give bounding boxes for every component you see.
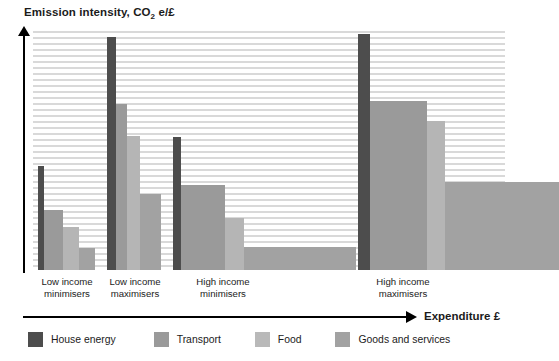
bar-high-income-minimisers-house-energy <box>173 137 181 270</box>
chart-legend: House energyTransportFoodGoods and servi… <box>28 332 450 347</box>
legend-label: House energy <box>51 334 116 345</box>
bar-high-income-maximisers-food <box>427 121 445 270</box>
y-axis-line <box>23 34 25 273</box>
y-axis-title: Emission intensity, CO2 e/£ <box>24 6 175 21</box>
group-label-line2: maximisers <box>363 288 443 300</box>
x-axis-arrow-icon <box>406 311 417 323</box>
legend-item-house-energy[interactable]: House energy <box>28 332 116 347</box>
bar-low-income-minimisers-transport <box>44 210 63 270</box>
legend-label: Transport <box>177 334 221 345</box>
group-label-line2: minimisers <box>183 288 263 300</box>
bar-high-income-maximisers-goods-and-services <box>445 182 559 270</box>
plot-area <box>33 31 505 270</box>
group-label-3: High incomeminimisers <box>183 276 263 299</box>
legend-swatch-icon <box>335 332 350 347</box>
legend-swatch-icon <box>154 332 169 347</box>
bar-high-income-maximisers-house-energy <box>358 34 370 270</box>
bar-low-income-minimisers-goods-and-services <box>79 248 95 270</box>
legend-swatch-icon <box>28 332 43 347</box>
legend-swatch-icon <box>255 332 270 347</box>
bar-high-income-minimisers-food <box>225 218 244 270</box>
bar-low-income-minimisers-food <box>63 227 79 270</box>
bar-low-income-maximisers-transport <box>116 104 127 270</box>
group-label-4: High incomemaximisers <box>363 276 443 299</box>
x-axis-title: Expenditure £ <box>424 310 500 322</box>
legend-item-transport[interactable]: Transport <box>154 332 221 347</box>
bar-low-income-maximisers-food <box>127 136 140 270</box>
bar-low-income-maximisers-house-energy <box>107 37 116 270</box>
group-label-2: Low incomemaximisers <box>95 276 175 299</box>
legend-label: Food <box>278 334 302 345</box>
x-axis-line <box>23 316 409 318</box>
group-label-line2: maximisers <box>95 288 175 300</box>
legend-item-food[interactable]: Food <box>255 332 302 347</box>
bar-high-income-minimisers-goods-and-services <box>244 247 356 270</box>
legend-label: Goods and services <box>358 334 450 345</box>
bar-low-income-maximisers-goods-and-services <box>140 194 161 270</box>
legend-item-goods-and-services[interactable]: Goods and services <box>335 332 450 347</box>
y-axis-title-tail: e/£ <box>155 6 175 18</box>
group-label-line1: High income <box>363 276 443 288</box>
bar-high-income-maximisers-transport <box>370 101 427 270</box>
group-label-line1: High income <box>183 276 263 288</box>
group-label-line1: Low income <box>95 276 175 288</box>
y-axis-title-main: Emission intensity, CO <box>24 6 151 18</box>
bar-high-income-minimisers-transport <box>181 185 225 270</box>
